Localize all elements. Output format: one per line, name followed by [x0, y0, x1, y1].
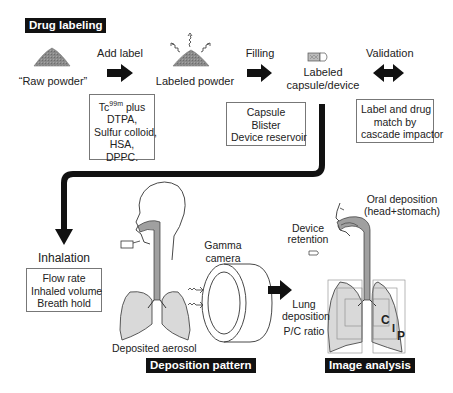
region-intermediate-label: I: [392, 322, 395, 334]
oral-deposition-label: Oral deposition (head+stomach): [362, 193, 442, 217]
patient-inhalation-figure: [120, 182, 190, 340]
raw-powder-pile-icon: [34, 48, 70, 66]
retained-device-icon: [309, 251, 319, 255]
section-tag-image-analysis: Image analysis: [325, 358, 415, 373]
inhalation-step: Inhalation: [37, 252, 91, 265]
left-lung: [120, 292, 152, 340]
label-agents-box: Tc99m plus DTPA, Sulfur colloid, HSA, DP…: [89, 94, 155, 160]
labeled-powder-pile-icon: [173, 50, 209, 66]
filling-options-box: Capsule Blister Device reservoir: [226, 102, 306, 146]
gamma-camera-icon: [202, 264, 272, 342]
add-label-step: Add label: [96, 47, 144, 60]
validation-method-box: Label and drug match by cascade impactor: [356, 99, 434, 143]
inhaler-icon: [121, 241, 133, 248]
validation-step: Validation: [366, 47, 412, 60]
filling-step: Filling: [240, 47, 280, 60]
gamma-ray-icon: [188, 287, 203, 308]
labeled-capsule-icon: [308, 53, 327, 61]
device-retention-label: Device retention: [286, 223, 330, 245]
deposited-aerosol-label: Deposited aerosol: [112, 342, 192, 355]
tc-label: Tc99m plus: [94, 98, 150, 113]
inhalation-params-box: Flow rate Inhaled volume Breath hold: [26, 268, 102, 312]
labeled-device-label: Labeled capsule/device: [285, 66, 361, 92]
lung-deposition-label: Lung deposition: [282, 298, 326, 322]
labeled-powder-label: Labeled powder: [155, 75, 235, 88]
region-central-label: C: [381, 313, 390, 327]
section-tag-deposition-pattern: Deposition pattern: [146, 358, 256, 373]
add-label-arrow-icon: [107, 64, 133, 82]
region-peripheral-label: P: [397, 329, 405, 343]
pc-ratio-label: P/C ratio: [282, 325, 326, 338]
section-tag-drug-labeling: Drug labeling: [25, 18, 106, 33]
validation-double-arrow-icon: [373, 64, 404, 82]
raw-powder-label: “Raw powder”: [18, 75, 88, 88]
right-lung: [162, 292, 190, 340]
gamma-camera-label: Gamma camera: [200, 239, 246, 265]
radiation-emission-icon: [171, 33, 210, 52]
filling-arrow-icon: [247, 64, 272, 82]
